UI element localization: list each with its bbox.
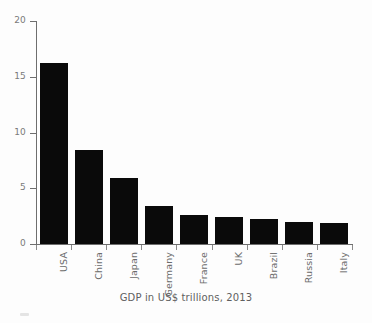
- x-tick-italy: [317, 245, 318, 250]
- bar-france: [180, 215, 208, 244]
- x-tick-france: [176, 245, 177, 250]
- x-tick-end: [352, 245, 353, 250]
- x-axis-line: [36, 244, 353, 245]
- bar-japan: [110, 178, 138, 244]
- category-label-uk: UK: [233, 252, 244, 265]
- y-tick-label-15: 15: [4, 72, 26, 81]
- bar-germany: [145, 206, 173, 244]
- bar-brazil: [250, 219, 278, 244]
- x-tick-uk: [212, 245, 213, 250]
- category-label-japan: Japan: [128, 252, 139, 279]
- scan-artifact: [20, 313, 29, 316]
- x-tick-russia: [282, 245, 283, 250]
- category-label-usa: USA: [58, 252, 69, 272]
- x-tick-germany: [141, 245, 142, 250]
- x-tick-japan: [106, 245, 107, 250]
- x-tick-brazil: [247, 245, 248, 250]
- gdp-bar-chart-figure: 05101520 USAChinaJapanGermanyFranceUKBra…: [0, 0, 372, 323]
- category-label-italy: Italy: [338, 252, 349, 273]
- category-label-russia: Russia: [303, 252, 314, 283]
- x-tick-usa: [36, 245, 37, 250]
- y-tick-label-20: 20: [4, 16, 26, 25]
- chart-caption: GDP in US$ trillions, 2013: [0, 292, 372, 303]
- category-label-germany: Germany: [163, 252, 174, 296]
- bar-usa: [40, 63, 68, 244]
- y-tick-label-10: 10: [4, 128, 26, 137]
- bar-uk: [215, 217, 243, 244]
- x-tick-china: [71, 245, 72, 250]
- y-tick-label-0: 0: [4, 239, 26, 248]
- bar-china: [75, 150, 103, 244]
- category-label-france: France: [198, 252, 209, 284]
- category-label-china: China: [93, 252, 104, 280]
- bar-russia: [285, 222, 313, 244]
- y-tick-label-5: 5: [4, 183, 26, 192]
- plot-area: [36, 21, 352, 244]
- category-label-brazil: Brazil: [268, 252, 279, 279]
- bar-italy: [320, 223, 348, 244]
